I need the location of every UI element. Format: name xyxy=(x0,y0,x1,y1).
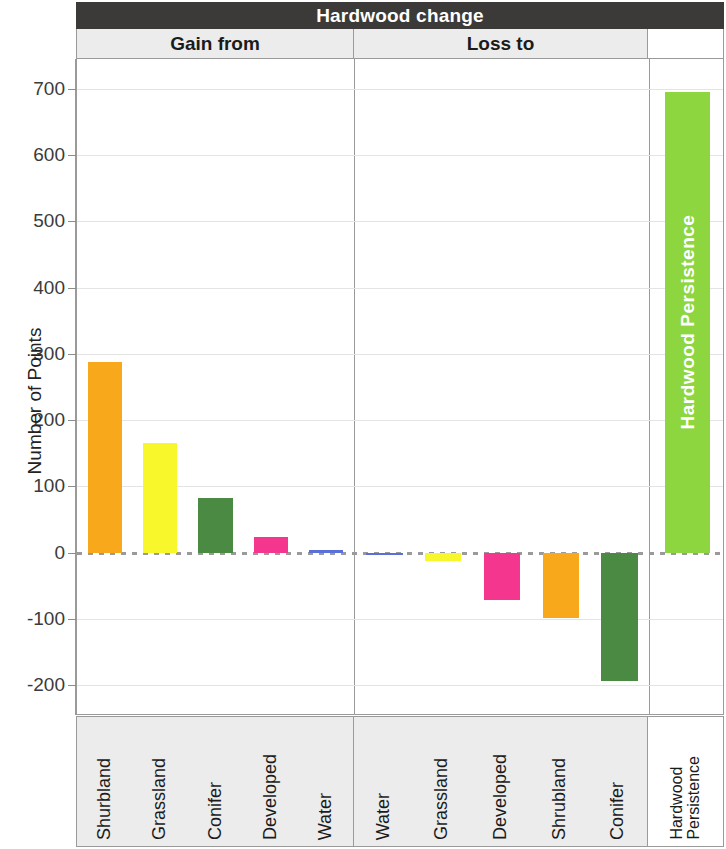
x-axis-label-cell: Conifer xyxy=(588,717,647,846)
x-labels-persistence: HardwoodPersistence xyxy=(648,717,723,846)
x-axis-label-cell: Developed xyxy=(243,717,298,846)
y-axis-tick-label: 600 xyxy=(33,144,65,166)
bar xyxy=(198,498,232,553)
bar xyxy=(425,553,461,561)
y-axis-tick xyxy=(68,288,76,289)
y-axis-tick-label: 0 xyxy=(54,542,65,564)
gridline xyxy=(77,420,723,421)
gridline xyxy=(77,155,723,156)
x-axis-label-cell: HardwoodPersistence xyxy=(648,717,723,846)
chart-page: Hardwood change Gain from Loss to Hardwo… xyxy=(0,0,726,849)
y-axis-tick-label: 700 xyxy=(33,78,65,100)
chart-title-bar: Hardwood change xyxy=(76,2,724,29)
bar xyxy=(254,537,288,552)
y-axis-tick xyxy=(68,354,76,355)
panel-header-loss: Loss to xyxy=(354,29,648,58)
y-axis-tick-label: 500 xyxy=(33,210,65,232)
x-axis-label: Grassland xyxy=(150,758,169,840)
bar xyxy=(88,362,122,553)
panel-header-gain-label: Gain from xyxy=(170,33,260,55)
y-axis-line xyxy=(75,59,76,715)
x-axis-label: Water xyxy=(374,793,393,840)
bar xyxy=(484,553,520,601)
panel-divider-2 xyxy=(649,59,650,714)
bar xyxy=(366,553,402,556)
y-axis-tick xyxy=(68,619,76,620)
bar xyxy=(143,443,177,552)
y-axis-tick xyxy=(68,221,76,222)
x-axis-label: Water xyxy=(316,793,335,840)
panel-header-gain: Gain from xyxy=(77,29,354,58)
y-axis-tick xyxy=(68,420,76,421)
panel-header-persistence xyxy=(648,29,723,58)
y-axis-tick xyxy=(68,486,76,487)
y-axis-tick-label: -100 xyxy=(27,608,65,630)
y-axis-tick-label: -200 xyxy=(27,674,65,696)
y-axis-title: Number of Points xyxy=(24,291,46,511)
x-axis-label: Conifer xyxy=(206,782,225,840)
panel-header-loss-label: Loss to xyxy=(467,33,535,55)
x-labels-gain: ShurblandGrasslandConiferDevelopedWater xyxy=(77,717,354,846)
panel-header-band: Gain from Loss to xyxy=(76,29,724,59)
x-axis-label: Developed xyxy=(491,754,510,840)
gridline xyxy=(77,221,723,222)
gridline xyxy=(77,685,723,686)
x-axis-label-cell: Water xyxy=(298,717,353,846)
x-axis-label: Shrubland xyxy=(550,758,569,840)
bar xyxy=(601,553,637,682)
x-axis-label-cell: Shrubland xyxy=(530,717,589,846)
y-axis-tick xyxy=(68,89,76,90)
bar xyxy=(309,550,343,553)
x-axis-label-cell: Shurbland xyxy=(77,717,132,846)
plot-area: Hardwood Persistence xyxy=(76,59,724,715)
x-axis-label: Shurbland xyxy=(95,758,114,840)
x-axis-label-cell: Water xyxy=(354,717,413,846)
x-axis-label-strip: ShurblandGrasslandConiferDevelopedWater … xyxy=(76,716,724,847)
x-axis-label: HardwoodPersistence xyxy=(669,756,703,840)
y-axis-tick xyxy=(68,553,76,554)
x-axis-label-cell: Grassland xyxy=(413,717,472,846)
bar xyxy=(543,553,579,619)
gridline xyxy=(77,89,723,90)
gridline xyxy=(77,354,723,355)
x-axis-label-cell: Grassland xyxy=(132,717,187,846)
panel-divider-1 xyxy=(354,59,355,714)
gridline xyxy=(77,288,723,289)
x-axis-label: Developed xyxy=(261,754,280,840)
x-axis-label: Grassland xyxy=(432,758,451,840)
bar-inner-label: Hardwood Persistence xyxy=(677,215,699,430)
y-axis-tick xyxy=(68,685,76,686)
y-axis-tick xyxy=(68,155,76,156)
x-axis-label: Conifer xyxy=(608,782,627,840)
page-title: Hardwood change xyxy=(316,5,484,27)
x-labels-loss: WaterGrasslandDevelopedShrublandConifer xyxy=(354,717,648,846)
x-axis-label-cell: Conifer xyxy=(187,717,242,846)
x-axis-label-cell: Developed xyxy=(471,717,530,846)
bar: Hardwood Persistence xyxy=(665,92,710,553)
